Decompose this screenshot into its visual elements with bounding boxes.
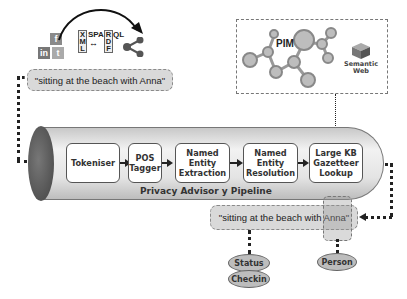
stage-tokeniser: Tokeniser bbox=[66, 143, 120, 183]
pim-label: PIM bbox=[276, 38, 294, 49]
stage-named-entity-extraction: Named Entity Extraction bbox=[175, 143, 230, 183]
arrow-right-icon bbox=[230, 162, 239, 164]
stage-pos-tagger: POS Tagger bbox=[128, 143, 162, 183]
dotted-connector bbox=[365, 216, 392, 219]
arrow-right-icon bbox=[162, 162, 169, 164]
arrow-right-icon bbox=[298, 162, 305, 164]
twitter-icon: t bbox=[52, 47, 64, 59]
share-icon bbox=[123, 37, 145, 57]
linkedin-icon: in bbox=[38, 47, 50, 59]
dotted-connector bbox=[17, 76, 25, 79]
input-text-box: "sitting at the beach with Anna" bbox=[27, 69, 173, 91]
double-arrow-icon: ↔ bbox=[89, 38, 98, 48]
annotation-checkin: Checkin bbox=[228, 270, 270, 288]
stage-named-entity-resolution: Named Entity Resolution bbox=[243, 143, 298, 183]
pim-network-graph bbox=[240, 22, 350, 92]
semantic-web-label: Semantic Web bbox=[340, 61, 382, 76]
entity-highlight-anna bbox=[323, 196, 352, 241]
dotted-connector bbox=[17, 77, 20, 160]
dotted-connector bbox=[335, 94, 336, 128]
pipeline-title: Privacy Advisor y Pipeline bbox=[140, 186, 272, 196]
dotted-connector bbox=[390, 163, 393, 217]
pipeline-cylinder-end bbox=[28, 126, 54, 201]
semantic-web-cube-icon bbox=[351, 40, 371, 60]
rdf-label: R D F bbox=[104, 30, 113, 53]
dotted-connector bbox=[336, 239, 339, 253]
stage-large-kb-gazetteer-lookup: Large KB Gazetteer Lookup bbox=[309, 143, 363, 183]
annotation-person: Person bbox=[317, 253, 357, 271]
xml-label: X M L bbox=[78, 30, 87, 53]
arrow-left-icon bbox=[359, 213, 366, 221]
dotted-connector bbox=[248, 230, 251, 254]
arrow-right-icon bbox=[120, 162, 127, 164]
